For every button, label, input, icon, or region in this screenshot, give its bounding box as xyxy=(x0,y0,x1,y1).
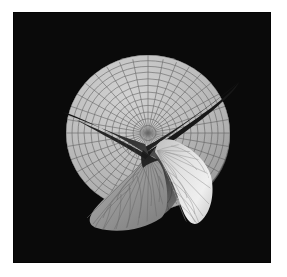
surface-plot-svg xyxy=(13,12,271,263)
surface-plot-panel xyxy=(13,12,271,263)
figure-container xyxy=(0,0,287,277)
